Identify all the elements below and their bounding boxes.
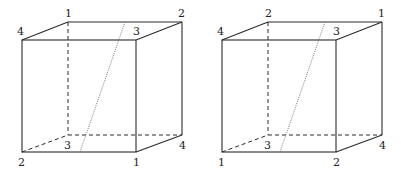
hidden-bottom-left-edge <box>222 135 268 152</box>
label-front-top-left: 4 <box>17 25 24 38</box>
dotted-diagonal <box>80 22 125 152</box>
cube-diagram: 1 2 4 3 2 1 3 4 2 1 4 3 1 2 3 4 <box>0 0 401 172</box>
label-back-top-right: 2 <box>178 7 185 20</box>
label-front-bottom-left: 1 <box>218 156 225 169</box>
top-left-edge <box>222 22 268 40</box>
label-front-top-right: 3 <box>133 25 140 38</box>
bottom-right-edge <box>336 135 382 152</box>
top-right-edge <box>336 22 382 40</box>
dotted-diagonal <box>280 22 325 152</box>
label-back-bottom-right: 4 <box>179 139 186 152</box>
label-back-top-left: 2 <box>265 7 272 20</box>
label-front-bottom-right: 1 <box>133 156 140 169</box>
label-back-top-left: 1 <box>65 7 72 20</box>
top-left-edge <box>22 22 68 40</box>
label-front-bottom-right: 2 <box>333 156 340 169</box>
label-front-top-right: 3 <box>333 25 340 38</box>
right-cube: 2 1 4 3 1 2 3 4 <box>217 7 386 169</box>
label-back-top-right: 1 <box>378 7 385 20</box>
label-back-bottom-left: 3 <box>264 139 271 152</box>
bottom-right-edge <box>136 135 182 152</box>
top-right-edge <box>136 22 182 40</box>
label-front-bottom-left: 2 <box>18 156 25 169</box>
label-front-top-left: 4 <box>217 25 224 38</box>
label-back-bottom-left: 3 <box>64 139 71 152</box>
hidden-bottom-left-edge <box>22 135 68 152</box>
left-cube: 1 2 4 3 2 1 3 4 <box>17 7 186 169</box>
label-back-bottom-right: 4 <box>379 139 386 152</box>
